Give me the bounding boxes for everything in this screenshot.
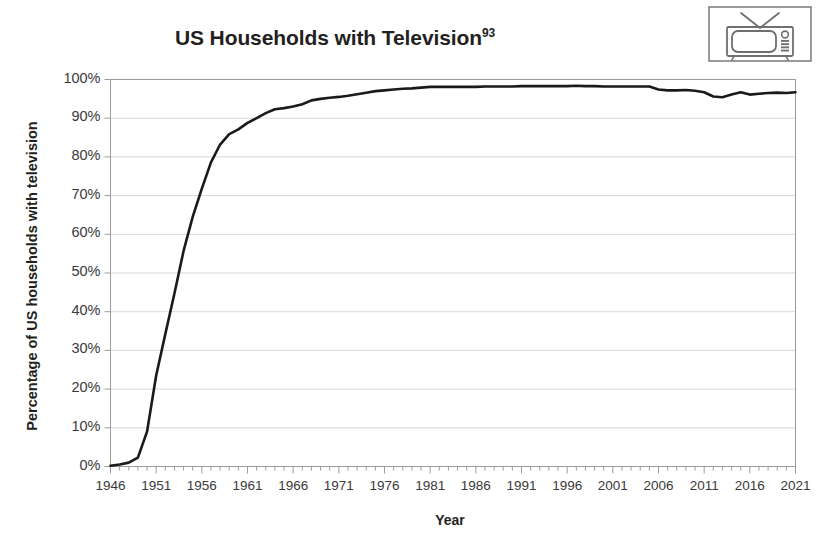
y-tick-label: 60%: [41, 224, 101, 240]
y-tick-label: 50%: [41, 263, 101, 279]
x-tick-label: 2006: [634, 478, 684, 493]
y-tick-label: 90%: [41, 108, 101, 124]
x-tick-label: 1986: [451, 478, 501, 493]
x-tick-label: 1966: [268, 478, 318, 493]
x-tick-label: 1951: [131, 478, 181, 493]
x-tick-label: 2001: [588, 478, 638, 493]
gridlines: [111, 80, 796, 428]
y-ticks: [105, 80, 111, 467]
y-tick-label: 30%: [41, 340, 101, 356]
y-tick-label: 40%: [41, 302, 101, 318]
y-tick-label: 80%: [41, 147, 101, 163]
x-tick-label: 1976: [360, 478, 410, 493]
x-tick-label: 1946: [86, 478, 136, 493]
y-tick-label: 100%: [41, 70, 101, 86]
x-tick-label: 1961: [223, 478, 273, 493]
chart-figure: US Households with Television93 Percenta…: [0, 0, 824, 542]
data-series-line: [111, 86, 796, 466]
x-tick-label: 1981: [405, 478, 455, 493]
x-tick-label: 2021: [771, 478, 821, 493]
x-minor-ticks: [111, 467, 796, 474]
y-tick-label: 10%: [41, 418, 101, 434]
x-tick-label: 1956: [177, 478, 227, 493]
x-tick-label: 2016: [725, 478, 775, 493]
x-tick-label: 1996: [542, 478, 592, 493]
y-tick-label: 20%: [41, 379, 101, 395]
y-tick-label: 70%: [41, 186, 101, 202]
x-tick-label: 1971: [314, 478, 364, 493]
x-tick-label: 1991: [497, 478, 547, 493]
y-tick-label: 0%: [41, 457, 101, 473]
x-tick-label: 2011: [679, 478, 729, 493]
plot-area: [0, 0, 824, 542]
